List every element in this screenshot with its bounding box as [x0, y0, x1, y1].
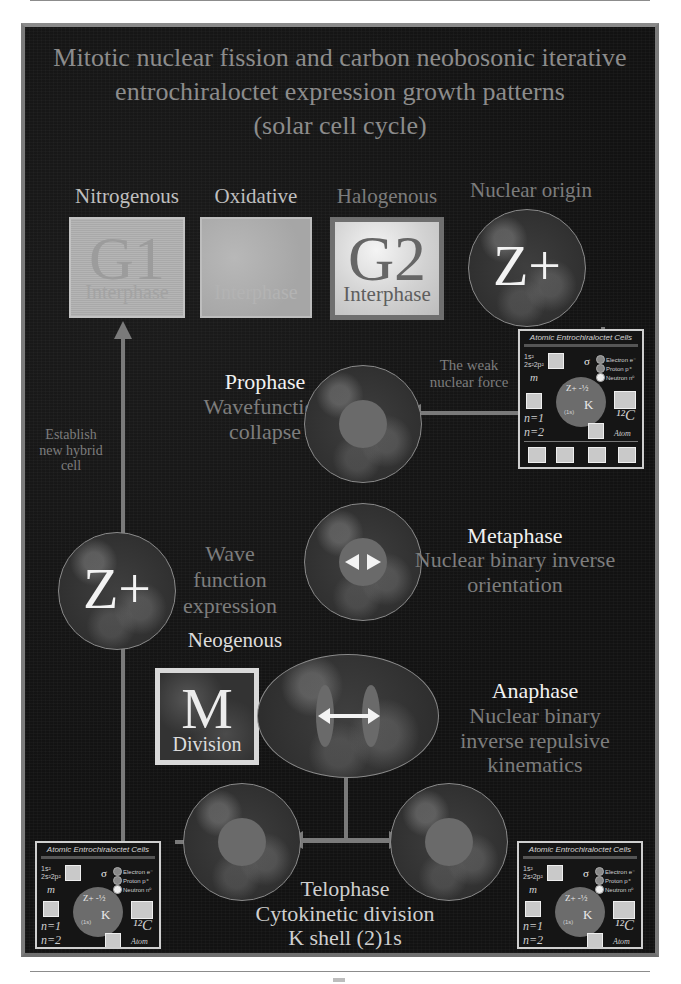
- inset-bottom-orbital: [587, 933, 603, 949]
- inset-config-1s: 1s²: [41, 865, 51, 872]
- inset-config-1s: 1s²: [524, 353, 534, 360]
- inset-m-label: m: [529, 883, 537, 895]
- wave-function-line-3: expression: [175, 593, 285, 619]
- inset-title: Atomic Entrochiraloctet Cells: [519, 845, 641, 854]
- inset-legend-electron: Electron e⁻: [606, 356, 636, 363]
- wave-function-line-1: Wave: [175, 541, 285, 567]
- title-line-3: (solar cell cycle): [25, 109, 655, 143]
- atomic-cells-inset-bottom-left: Atomic Entrochiraloctet Cells 1s² 2s²2p²…: [35, 841, 161, 949]
- inset-legend-neutron: Neutron n⁰: [123, 886, 151, 893]
- inset-bottom-orbital: [105, 933, 121, 949]
- electron-legend-icon: [596, 355, 605, 364]
- inset-k-label: K: [584, 397, 593, 413]
- telophase-label: Telophase Cytokinetic division K shell (…: [225, 877, 465, 951]
- anaphase-line-2: inverse repulsive: [445, 729, 625, 754]
- nuclear-origin-header: Nuclear origin: [457, 179, 605, 203]
- establish-line-1: Establish: [31, 427, 111, 443]
- wave-function-line-2: function: [175, 567, 285, 593]
- inset-title: Atomic Entrochiraloctet Cells: [520, 333, 642, 342]
- bottom-rule: [30, 971, 650, 972]
- title-line-2: entrochiraloctet expression growth patte…: [25, 75, 655, 109]
- electron-legend-icon: [595, 867, 604, 876]
- anaphase-repulsion-arrow-icon: [318, 708, 380, 724]
- inset-carbon-12: ¹²C: [615, 917, 634, 934]
- metaphase-line-2: orientation: [395, 573, 635, 598]
- inset-carbon-12: ¹²C: [133, 917, 152, 934]
- proton-legend-icon: [113, 876, 122, 885]
- inset-orbital-box: [548, 353, 564, 369]
- inset-bottom-orbital: [588, 423, 604, 439]
- inset-atom-label: Atom: [613, 937, 630, 946]
- telophase-title: Telophase: [225, 877, 465, 902]
- inset-pathway-box-1: [528, 447, 546, 463]
- weak-force-line-1: The weak: [419, 357, 519, 374]
- telophase-line-2: K shell (2)1s: [225, 926, 465, 951]
- g2-interphase-box: G2 Interphase: [330, 217, 444, 320]
- inset-k-label: K: [583, 907, 592, 923]
- neogenous-header: Neogenous: [175, 629, 295, 653]
- telophase-connector-vertical: [344, 778, 348, 840]
- inset-subtitle-bar: [524, 344, 638, 347]
- wave-function-label: Wave function expression: [175, 541, 285, 619]
- prophase-nucleus: [339, 400, 387, 448]
- weak-force-label: The weak nuclear force: [419, 357, 519, 391]
- anaphase-cell: [257, 654, 439, 778]
- oxidative-sub-label: Interphase: [202, 281, 310, 304]
- m-division-box: M Division: [155, 668, 259, 765]
- inset-subtitle-bar: [523, 856, 637, 859]
- atomic-cells-inset-top-right: Atomic Entrochiraloctet Cells 1s² 2s²2p²…: [518, 329, 644, 469]
- weak-force-line-2: nuclear force: [419, 374, 519, 391]
- inset-sigma: σ: [101, 867, 107, 879]
- inset-sigma: σ: [583, 867, 589, 879]
- oxidative-interphase-box: Interphase: [200, 217, 312, 318]
- halogenous-header: Halogenous: [325, 185, 449, 209]
- inset-config-2s2p: 2s²2p²: [41, 873, 61, 880]
- telophase-connector-horizontal: [299, 838, 391, 843]
- inset-zplus: Z+ -½: [83, 893, 106, 903]
- inset-zplus: Z+ -½: [565, 893, 588, 903]
- inset-zplus: Z+ -½: [566, 383, 589, 393]
- inset-n1: n=1: [524, 411, 544, 426]
- inset-pathway-box-2: [556, 447, 574, 463]
- proton-legend-icon: [595, 876, 604, 885]
- electron-legend-icon: [113, 867, 122, 876]
- anaphase-title: Anaphase: [465, 679, 605, 704]
- inset-orbital-box: [547, 865, 563, 881]
- inset-legend-neutron: Neutron n⁰: [605, 886, 633, 893]
- inset-pathway-box-4: [618, 447, 636, 463]
- inset-legend-proton: Proton p⁺: [605, 877, 631, 884]
- inset-n2: n=2: [524, 425, 544, 440]
- panel-texture: [25, 27, 655, 953]
- telophase-nucleus-left: [218, 818, 266, 866]
- inset-config-2s2p: 2s²2p²: [524, 361, 544, 368]
- m-sub-label: Division: [160, 733, 254, 756]
- telophase-line-1: Cytokinetic division: [225, 902, 465, 927]
- prophase-title: Prophase: [205, 370, 325, 395]
- inset-m-label: m: [47, 883, 55, 895]
- inset-config-1s: 1s²: [523, 865, 533, 872]
- inset-legend-neutron: Neutron n⁰: [606, 374, 634, 381]
- inset-legend-proton: Proton p⁺: [606, 365, 632, 372]
- inset-sigma: σ: [584, 355, 590, 367]
- metaphase-description: Nuclear binary inverse orientation: [395, 548, 635, 597]
- neutron-legend-icon: [596, 373, 605, 382]
- inset-config-2s2p: 2s²2p²: [523, 873, 543, 880]
- metaphase-orientation-arrow-icon: [345, 554, 381, 570]
- m-label: M: [160, 675, 254, 742]
- page-number-mark: [333, 978, 345, 982]
- inset-atom-label: Atom: [614, 429, 631, 438]
- inset-n1: n=1: [41, 919, 61, 934]
- diagram-title: Mitotic nuclear fission and carbon neobo…: [25, 41, 655, 143]
- inset-divider: [524, 441, 638, 442]
- g1-interphase-box: G1 Interphase: [69, 217, 185, 318]
- inset-1s: (1s): [564, 409, 574, 415]
- establish-label: Establish new hybrid cell: [31, 427, 111, 474]
- inset-atom-label: Atom: [131, 937, 148, 946]
- anaphase-description: Nuclear binary inverse repulsive kinemat…: [445, 704, 625, 778]
- wave-function-symbol: Z+: [59, 555, 175, 622]
- anaphase-line-3: kinematics: [445, 753, 625, 778]
- top-rule: [30, 0, 650, 1]
- inset-legend-proton: Proton p⁺: [123, 877, 149, 884]
- oxidative-header: Oxidative: [195, 185, 317, 209]
- inset-n1: n=1: [523, 919, 543, 934]
